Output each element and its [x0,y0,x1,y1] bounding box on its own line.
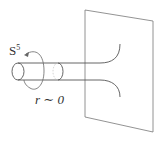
radius-label: r ∼ 0 [35,92,64,107]
brane-throat-diagram: S5 r ∼ 0 [0,0,163,142]
rotation-arrow-front [24,80,30,88]
arrowhead-icon [24,52,29,57]
plane [85,10,153,132]
tube-cross-section-back [53,63,58,80]
sphere-label: S5 [9,43,20,58]
tube-top-line [18,44,120,63]
rotation-arrow-back [26,52,44,89]
tube-bottom-line [18,80,120,97]
tube-end-ellipse [12,63,24,80]
tube-cross-section-front [58,63,63,80]
